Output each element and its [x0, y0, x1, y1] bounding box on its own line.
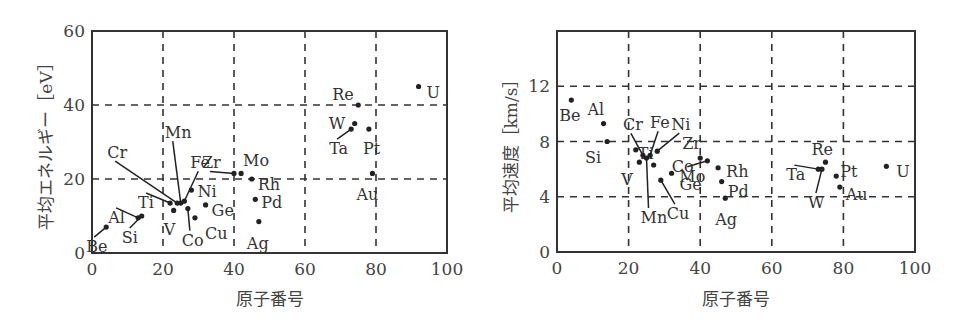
data-point-mo	[239, 171, 244, 176]
data-point-u	[416, 84, 421, 89]
plot-frame	[92, 31, 447, 253]
y-tick-label: 20	[63, 169, 85, 189]
point-label-cu: Cu	[667, 204, 690, 223]
data-point-w	[819, 167, 824, 172]
y-tick-label: 60	[63, 21, 85, 41]
point-label-re: Re	[812, 140, 834, 159]
leader-line	[184, 171, 198, 201]
figure-canvas: 0204060801000204060 BeAlSiTiVCrMnFeCoNiC…	[0, 0, 955, 324]
point-label-ti: Ti	[138, 193, 154, 212]
data-point-al	[601, 121, 606, 126]
x-tick-label: 60	[294, 259, 316, 279]
x-tick-label: 60	[761, 258, 783, 278]
point-label-zr: Zr	[682, 134, 701, 153]
point-label-be: Be	[559, 106, 580, 125]
data-point-ge	[203, 202, 208, 207]
x-tick-label: 40	[689, 258, 711, 278]
data-point-pd	[719, 179, 724, 184]
data-point-cu	[658, 178, 663, 183]
data-point-ag	[256, 219, 261, 224]
point-label-rh: Rh	[726, 162, 748, 181]
point-label-mn: Mn	[641, 208, 668, 227]
data-point-v	[637, 160, 642, 165]
point-label-w: W	[329, 114, 346, 133]
point-label-al: Al	[107, 208, 125, 227]
point-label-v: V	[620, 170, 633, 189]
x-tick-label: 80	[365, 259, 387, 279]
point-label-re: Re	[332, 85, 354, 104]
point-label-al: Al	[587, 100, 605, 119]
x-tick-label: 100	[431, 259, 463, 279]
y-tick-label: 0	[74, 243, 85, 263]
point-label-au: Au	[355, 185, 378, 204]
data-point-mo	[705, 158, 710, 163]
data-point-u	[884, 164, 889, 169]
point-label-mo: Mo	[679, 167, 705, 186]
data-point-si	[139, 213, 144, 218]
data-point-co	[651, 162, 656, 167]
y-axis-title: 平均エネルギー［eV］	[36, 54, 56, 229]
data-point-fe	[182, 199, 187, 204]
point-label-ag: Ag	[714, 210, 737, 229]
point-label-ta: Ta	[786, 165, 805, 184]
point-label-v: V	[163, 220, 176, 239]
point-label-cu: Cu	[205, 224, 228, 243]
leader-line	[661, 180, 675, 204]
data-points: BeAlSiTiVCrMnFeCoNiCuGeZrMoRhPdAgTaWRePt…	[86, 83, 440, 257]
gridlines	[92, 31, 447, 253]
data-point-re	[823, 160, 828, 165]
point-label-ag: Ag	[246, 234, 269, 253]
point-label-si: Si	[585, 148, 601, 167]
data-point-pt	[366, 126, 371, 131]
y-tick-label: 40	[63, 95, 85, 115]
data-point-v	[171, 208, 176, 213]
data-point-ni	[655, 149, 660, 154]
leader-line	[173, 141, 181, 203]
y-tick-label: 4	[539, 187, 550, 207]
data-point-be	[569, 97, 574, 102]
data-point-pd	[253, 197, 258, 202]
y-tick-label: 8	[539, 132, 550, 152]
y-axis-title: 平均速度［km/s］	[501, 71, 521, 214]
point-label-rh: Rh	[258, 175, 280, 194]
point-label-fe: Fe	[650, 113, 670, 132]
y-tick-label: 12	[528, 76, 550, 96]
x-tick-label: 0	[87, 259, 98, 279]
data-point-rh	[716, 165, 721, 170]
point-label-cr: Cr	[107, 143, 127, 162]
point-label-pd: Pd	[728, 182, 749, 201]
data-point-co	[185, 206, 190, 211]
point-label-ni: Ni	[197, 182, 216, 201]
point-label-si: Si	[122, 228, 138, 247]
data-point-ti	[168, 200, 173, 205]
data-point-w	[352, 121, 357, 126]
point-label-ta: Ta	[329, 139, 348, 158]
data-point-re	[356, 102, 361, 107]
point-label-u: U	[427, 83, 440, 102]
data-point-au	[370, 171, 375, 176]
point-label-co: Co	[182, 231, 204, 250]
point-label-zr: Zr	[202, 153, 221, 172]
data-point-fe	[647, 153, 652, 158]
point-label-cr: Cr	[623, 115, 643, 134]
data-point-rh	[249, 176, 254, 181]
y-tick-label: 0	[539, 242, 550, 262]
leader-lines	[94, 129, 351, 237]
data-point-ta	[349, 126, 354, 131]
x-tick-label: 0	[552, 258, 563, 278]
point-label-be: Be	[86, 237, 107, 256]
x-tick-label: 40	[223, 259, 245, 279]
point-label-u: U	[896, 162, 909, 181]
x-tick-label: 20	[618, 258, 640, 278]
data-point-zr	[698, 155, 703, 160]
leader-line	[188, 209, 190, 231]
point-label-mn: Mn	[165, 123, 192, 142]
x-tick-label: 80	[833, 258, 855, 278]
data-point-ni	[189, 188, 194, 193]
chart-velocity: 02040608010004812 BeAlSiTiVCrMnFeCoNiCuG…	[501, 31, 931, 309]
x-tick-label: 100	[899, 258, 931, 278]
data-points: BeAlSiTiVCrMnFeCoNiCuGeZrMoRhPdAgTaWRePt…	[559, 97, 910, 229]
point-label-w: W	[808, 193, 825, 212]
point-label-pt: Pt	[363, 139, 381, 158]
data-point-si	[605, 139, 610, 144]
